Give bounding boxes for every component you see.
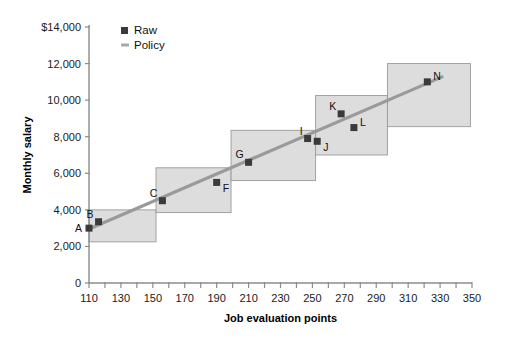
data-point-label: N: [433, 70, 441, 82]
data-point-label: I: [300, 125, 303, 137]
raw-data-point: [304, 135, 311, 142]
data-point-label: G: [235, 148, 243, 160]
raw-data-point: [86, 225, 93, 232]
policy-line: [89, 76, 443, 229]
raw-data-point: [424, 78, 431, 85]
x-axis-tick-label: 310: [399, 292, 417, 304]
y-axis-tick-label: 12,000: [47, 58, 81, 70]
x-axis-title: Job evaluation points: [224, 312, 337, 324]
y-axis-tick-label: 10,000: [47, 94, 81, 106]
y-axis-tick-label: 6,000: [53, 167, 81, 179]
y-axis-tick-label: $14,000: [41, 21, 81, 33]
data-point-label: K: [329, 100, 336, 112]
y-axis-tick-label: 2,000: [53, 240, 81, 252]
y-axis-tick-label: 0: [75, 277, 81, 289]
x-axis-tick-label: 190: [207, 292, 225, 304]
policy-line-layer: [89, 76, 443, 229]
salary-structure-chart: 02,0004,0006,0008,00010,00012,000$14,000…: [0, 0, 512, 343]
legend-label: Policy: [134, 39, 165, 51]
raw-data-point: [338, 110, 345, 117]
data-point-label: A: [75, 222, 82, 234]
raw-data-point: [213, 179, 220, 186]
raw-data-point: [95, 218, 102, 225]
chart-legend: RawPolicy: [121, 24, 165, 51]
y-axis-title: Monthly salary: [21, 116, 33, 194]
legend-marker-raw: [121, 27, 128, 34]
legend-label: Raw: [134, 24, 158, 36]
data-point-label: F: [223, 182, 229, 194]
chart-svg: 02,0004,0006,0008,00010,00012,000$14,000…: [0, 0, 512, 343]
x-axis-tick-label: 210: [239, 292, 257, 304]
grade-range-box: [156, 168, 231, 213]
x-axis-tick-label: 230: [271, 292, 289, 304]
data-point-label: C: [150, 187, 158, 199]
raw-data-point: [350, 124, 357, 131]
x-axis-tick-label: 330: [431, 292, 449, 304]
x-axis-tick-label: 150: [144, 292, 162, 304]
data-point-label: L: [360, 116, 366, 128]
x-axis-tick-label: 270: [335, 292, 353, 304]
x-axis-tick-label: 250: [303, 292, 321, 304]
x-axis-tick-label: 350: [463, 292, 481, 304]
y-axis-tick-label: 4,000: [53, 204, 81, 216]
x-axis-tick-label: 110: [80, 292, 98, 304]
x-axis-tick-label: 290: [367, 292, 385, 304]
x-axis-tick-label: 130: [112, 292, 130, 304]
y-axis-tick-label: 8,000: [53, 131, 81, 143]
x-axis-tick-label: 170: [176, 292, 194, 304]
raw-data-point: [245, 159, 252, 166]
data-point-label: J: [323, 141, 328, 153]
data-point-label: B: [87, 208, 94, 220]
raw-data-point: [159, 197, 166, 204]
raw-data-point: [314, 138, 321, 145]
